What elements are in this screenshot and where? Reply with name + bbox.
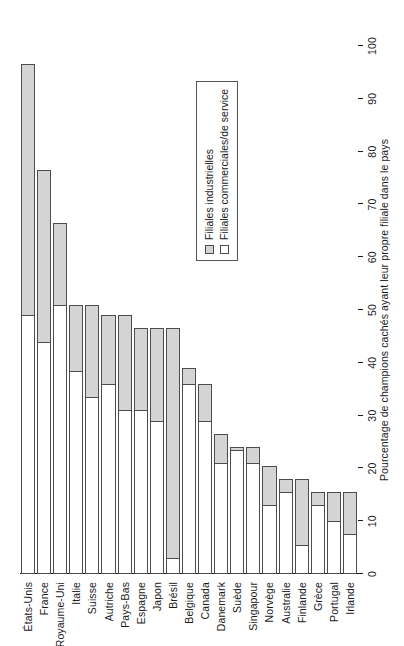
bar-segment-commercial <box>246 463 260 574</box>
bar-segment-commercial <box>69 371 83 574</box>
x-axis-title: Pourcentage de champions cachés ayant le… <box>378 46 390 574</box>
stacked-bar <box>327 492 341 574</box>
legend-label-commercial: Filiales commerciales/de service <box>217 89 232 240</box>
axis-tick-label: 90 <box>366 93 378 105</box>
bar-segment-commercial <box>150 421 164 574</box>
bar-row <box>149 46 165 574</box>
axis-tick <box>358 256 363 257</box>
stacked-bar <box>311 492 325 574</box>
bar-segment-commercial <box>327 521 341 574</box>
axis-tick-label: 100 <box>366 37 378 55</box>
stacked-bar <box>182 368 196 574</box>
bar-segment-commercial <box>134 410 148 574</box>
bar-segment-industrial <box>246 447 260 464</box>
legend-item-industrial: Filiales industrielles <box>202 89 217 254</box>
bar-row <box>326 46 342 574</box>
chart-legend: Filiales industrielles Filiales commerci… <box>196 81 238 261</box>
stacked-bar <box>53 223 67 574</box>
axis-tick <box>358 467 363 468</box>
bar-row <box>181 46 197 574</box>
bar-segment-industrial <box>230 447 244 451</box>
axis-tick <box>358 98 363 99</box>
axis-tick <box>358 573 363 574</box>
bar-row <box>165 46 181 574</box>
category-label: Canada <box>197 576 213 646</box>
category-label: France <box>36 576 52 646</box>
bar-segment-commercial <box>101 384 115 574</box>
axis-tick-label: 50 <box>366 304 378 316</box>
bar-segment-industrial <box>182 368 196 385</box>
axis-tick-label: 0 <box>366 571 378 577</box>
bar-segment-industrial <box>327 492 341 522</box>
stacked-bar <box>295 479 309 574</box>
bar-segment-commercial <box>85 397 99 574</box>
bar-segment-industrial <box>150 329 164 422</box>
stacked-bar <box>134 328 148 574</box>
bar-row <box>261 46 277 574</box>
bar-segment-commercial <box>279 492 293 574</box>
legend-swatch-industrial-icon <box>205 245 214 254</box>
bar-row <box>20 46 36 574</box>
category-label: Suisse <box>84 576 100 646</box>
axis-tick <box>358 45 363 46</box>
category-label: Pays-Bas <box>117 576 133 646</box>
stacked-bar <box>21 64 35 574</box>
bar-segment-commercial <box>118 410 132 574</box>
bar-segment-industrial <box>69 305 83 372</box>
bar-row <box>84 46 100 574</box>
category-label: Danemark <box>213 576 229 646</box>
category-label: Royaume-Uni <box>52 576 68 646</box>
stacked-bar <box>101 315 115 574</box>
category-label: Australie <box>278 576 294 646</box>
bar-row <box>342 46 358 574</box>
bar-segment-industrial <box>134 329 148 412</box>
bar-segment-industrial <box>85 305 99 398</box>
axis-tick-label: 80 <box>366 146 378 158</box>
category-label: Irlande <box>342 576 358 646</box>
bar-segment-industrial <box>214 434 228 464</box>
axis-tick-label: 20 <box>366 462 378 474</box>
stacked-bar <box>85 305 99 574</box>
legend-swatch-commercial-icon <box>220 245 229 254</box>
axis-tick <box>358 151 363 152</box>
bar-segment-industrial <box>262 466 276 507</box>
stacked-bar <box>279 479 293 574</box>
bar-segment-industrial <box>37 170 51 343</box>
bar-segment-commercial <box>262 505 276 574</box>
plot-area: 0102030405060708090100 <box>20 46 358 574</box>
bar-segment-industrial <box>21 65 35 317</box>
bar-segment-commercial <box>37 342 51 574</box>
stacked-bar <box>230 447 244 574</box>
category-label: Italie <box>68 576 84 646</box>
bar-segment-commercial <box>311 505 325 574</box>
bar-row <box>100 46 116 574</box>
category-label: Grèce <box>310 576 326 646</box>
bar-row <box>310 46 326 574</box>
axis-tick <box>358 520 363 521</box>
bar-row <box>117 46 133 574</box>
bar-segment-commercial <box>182 384 196 574</box>
bar-row <box>294 46 310 574</box>
category-label: Norvège <box>261 576 277 646</box>
bar-segment-industrial <box>198 384 212 422</box>
bar-segment-commercial <box>214 463 228 574</box>
bar-segment-commercial <box>21 315 35 574</box>
bar-row <box>133 46 149 574</box>
axis-tick-label: 60 <box>366 251 378 263</box>
bar-segment-industrial <box>101 315 115 385</box>
stacked-bar <box>150 328 164 574</box>
category-label: Autriche <box>100 576 116 646</box>
stacked-bar <box>343 492 357 574</box>
bar-row <box>245 46 261 574</box>
axis-tick <box>358 362 363 363</box>
axis-tick <box>358 309 363 310</box>
stacked-bar <box>214 434 228 574</box>
bar-segment-commercial <box>53 305 67 574</box>
stacked-bar <box>262 466 276 574</box>
bar-segment-industrial <box>343 492 357 535</box>
axis-tick-label: 30 <box>366 410 378 422</box>
bar-row <box>52 46 68 574</box>
bar-segment-industrial <box>166 329 180 560</box>
bar-segment-commercial <box>343 534 357 574</box>
bar-row <box>36 46 52 574</box>
